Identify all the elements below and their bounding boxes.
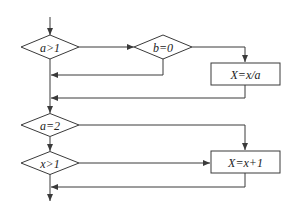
decision-x-greater-1-label: x>1 (40, 158, 59, 170)
decision-b-equals-0-label: b=0 (153, 42, 173, 54)
decision-a-equals-2-label: a=2 (40, 120, 60, 132)
flowchart-canvas (0, 0, 300, 212)
edge-p1-to-main (51, 85, 245, 98)
edge-d3-to-p2 (79, 125, 245, 150)
process-x-div-a-label: X=x/a (230, 69, 260, 81)
flowchart-nodes (21, 35, 280, 175)
edge-p2-to-main (51, 173, 245, 187)
process-x-plus-1-label: X=x+1 (228, 157, 263, 169)
decision-a-greater-1-label: a>1 (40, 42, 60, 54)
edge-d2-to-main (51, 58, 163, 75)
edge-d2-to-p1 (192, 47, 245, 62)
